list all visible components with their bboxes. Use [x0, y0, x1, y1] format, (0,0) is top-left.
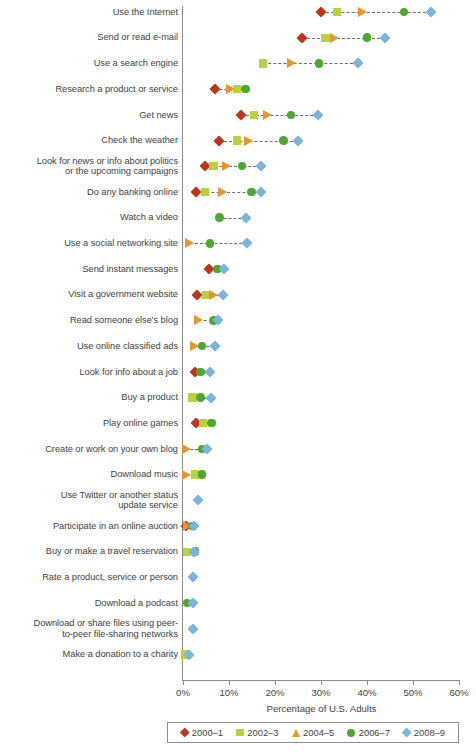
data-row — [183, 391, 476, 405]
category-label-line: Download or share files using peer- — [0, 618, 178, 629]
category-label: Buy a product — [0, 392, 178, 403]
data-point-diamond — [210, 83, 221, 94]
data-point-circle — [279, 136, 288, 145]
data-point-diamond — [242, 238, 253, 249]
data-point-square — [259, 59, 267, 67]
data-row — [183, 622, 476, 636]
data-point-diamond — [217, 289, 228, 300]
data-point-diamond — [190, 186, 201, 197]
category-label-line: Use a search engine — [0, 58, 178, 69]
category-label: Use Twitter or another statusupdate serv… — [0, 490, 178, 511]
category-label: Get news — [0, 110, 178, 121]
category-label-line: Send or read e-mail — [0, 32, 178, 43]
category-label: Look for info about a job — [0, 367, 178, 378]
data-point-square — [250, 111, 258, 119]
data-row — [183, 313, 476, 327]
data-point-circle — [206, 239, 215, 248]
category-label: Buy or make a travel reservation — [0, 546, 178, 557]
data-row — [183, 570, 476, 584]
legend-marker-diamond-icon — [179, 727, 189, 737]
category-label: Read someone else's blog — [0, 315, 178, 326]
data-row — [183, 648, 476, 662]
category-label-line: Download music — [0, 469, 178, 480]
data-point-triangle — [185, 238, 194, 248]
category-label-line: Research a product or service — [0, 84, 178, 95]
data-row — [183, 596, 476, 610]
category-label-line: Get news — [0, 110, 178, 121]
plot-area — [183, 0, 476, 690]
data-row — [183, 442, 476, 456]
legend-marker-square-icon — [236, 729, 244, 737]
data-point-diamond — [296, 32, 307, 43]
category-label-line: Look for news or info about politics — [0, 156, 178, 167]
category-label-line: or the upcoming campaigns — [0, 166, 178, 177]
legend-label: 2006–7 — [359, 727, 390, 738]
category-label-line: Use online classified ads — [0, 341, 178, 352]
category-label-line: Make a donation to a charity — [0, 649, 178, 660]
legend-item: 2000–1 — [181, 727, 223, 738]
data-point-circle — [241, 85, 250, 94]
data-row — [183, 468, 476, 482]
data-point-square — [199, 419, 207, 427]
x-axis-title: Percentage of U.S. Adults — [183, 703, 460, 714]
data-row — [183, 288, 476, 302]
data-point-triangle — [222, 161, 231, 171]
data-row — [183, 236, 476, 250]
category-label: Watch a video — [0, 212, 178, 223]
data-point-triangle — [218, 187, 227, 197]
legend-item: 2006–7 — [347, 727, 390, 738]
data-row — [183, 262, 476, 276]
data-point-diamond — [235, 109, 246, 120]
data-row — [183, 82, 476, 96]
data-point-circle — [238, 162, 247, 171]
data-row — [183, 519, 476, 533]
data-row — [183, 545, 476, 559]
data-row — [183, 159, 476, 173]
category-label: Send instant messages — [0, 264, 178, 275]
data-point-diamond — [187, 572, 198, 583]
category-label-line: Read someone else's blog — [0, 315, 178, 326]
category-label-line: Visit a government website — [0, 289, 178, 300]
category-label: Send or read e-mail — [0, 32, 178, 43]
legend-label: 2004–5 — [303, 727, 334, 738]
legend-item: 2004–5 — [292, 727, 335, 738]
category-label-line: Use Twitter or another status — [0, 490, 178, 501]
data-point-triangle — [244, 136, 253, 146]
data-point-circle — [363, 33, 372, 42]
category-label: Use online classified ads — [0, 341, 178, 352]
data-point-diamond — [315, 6, 326, 17]
data-point-diamond — [241, 212, 252, 223]
data-point-square — [201, 188, 209, 196]
category-label-line: Do any banking online — [0, 187, 178, 198]
data-row — [183, 56, 476, 70]
category-label-line: Check the weather — [0, 135, 178, 146]
category-label: Use the Internet — [0, 7, 178, 18]
data-point-circle — [287, 111, 296, 120]
category-label-line: Participate in an online auction — [0, 521, 178, 532]
data-point-triangle — [358, 7, 367, 17]
data-point-square — [321, 34, 329, 42]
data-point-diamond — [255, 161, 266, 172]
category-label: Rate a product, service or person — [0, 572, 178, 583]
data-row — [183, 211, 476, 225]
data-point-diamond — [380, 32, 391, 43]
category-label: Check the weather — [0, 135, 178, 146]
data-point-circle — [315, 59, 324, 68]
legend: 2000–12002–32004–52006–72008–9 — [167, 722, 459, 743]
data-point-square — [333, 8, 341, 16]
legend-marker-triangle-icon — [292, 729, 300, 737]
data-row — [183, 134, 476, 148]
legend-label: 2002–3 — [247, 727, 278, 738]
data-point-triangle — [226, 84, 235, 94]
data-point-triangle — [330, 33, 339, 43]
data-row — [183, 185, 476, 199]
data-point-circle — [215, 213, 224, 222]
data-point-diamond — [191, 289, 202, 300]
data-point-diamond — [352, 58, 363, 69]
category-label-line: Download a podcast — [0, 598, 178, 609]
category-label: Use a social networking site — [0, 238, 178, 249]
category-label: Make a donation to a charity — [0, 649, 178, 660]
legend-marker-circle-icon — [347, 729, 355, 737]
data-point-circle — [400, 8, 409, 17]
data-point-diamond — [292, 135, 303, 146]
